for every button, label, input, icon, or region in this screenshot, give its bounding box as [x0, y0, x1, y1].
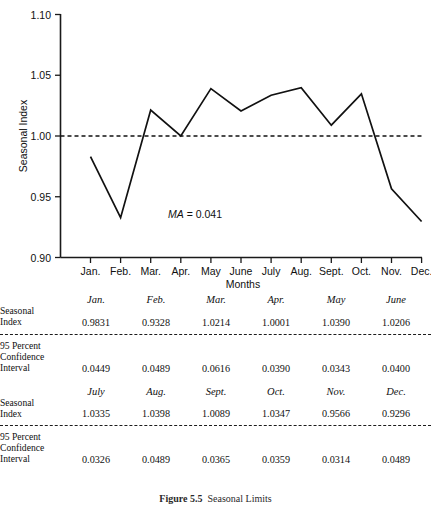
cell-ci-nov: 0.0314: [306, 429, 366, 468]
y-tick-label-4: 0.90: [31, 252, 52, 264]
cell-si-june: 1.0206: [366, 305, 426, 331]
chart-canvas: 1.10 1.05 1.00 0.95 0.90 Seasonal Index …: [0, 0, 431, 290]
cell-ci-dec: 0.0489: [366, 429, 426, 468]
table-row-confidence-interval-block2: 95 Percent Confidence Interval 0.0326 0.…: [0, 429, 431, 468]
row-label-line-2: Index: [0, 317, 66, 328]
column-header-july: July: [66, 386, 126, 397]
row-label-line-2: Index: [0, 409, 66, 420]
cell-si-dec: 0.9296: [366, 397, 426, 423]
y-tick-label-2: 1.00: [31, 130, 52, 142]
cell-ci-mar: 0.0616: [186, 338, 246, 377]
cell-si-apr: 1.0001: [246, 305, 306, 331]
cell-ci-june: 0.0400: [366, 338, 426, 377]
seasonal-index-series-line: [91, 88, 422, 222]
cell-si-aug: 1.0398: [126, 397, 186, 423]
cell-ci-aug: 0.0489: [126, 429, 186, 468]
x-tick-label-july: July: [262, 265, 281, 277]
ma-equals: =: [184, 208, 196, 220]
column-header-feb: Feb.: [126, 294, 186, 305]
y-tick-label-0: 1.10: [31, 9, 52, 21]
x-tick-label-nov: Nov.: [381, 265, 402, 277]
table-row-seasonal-index-block1: Seasonal Index 0.9831 0.9328 1.0214 1.00…: [0, 305, 431, 331]
dashed-divider: [0, 334, 431, 335]
row-label-seasonal-index-1: Seasonal Index: [0, 305, 66, 331]
column-header-sept: Sept.: [186, 386, 246, 397]
table-block-gap: [0, 377, 431, 386]
row-label-line-3: Interval: [0, 363, 66, 374]
row-label-confidence-interval-1: 95 Percent Confidence Interval: [0, 338, 66, 377]
y-tick-label-3: 0.95: [31, 191, 52, 203]
x-axis-title: Months: [226, 278, 260, 290]
x-tick-label-jan: Jan.: [81, 265, 101, 277]
table-row-seasonal-index-block2: Seasonal Index 1.0335 1.0398 1.0089 1.03…: [0, 397, 431, 423]
cell-si-feb: 0.9328: [126, 305, 186, 331]
column-header-nov: Nov.: [306, 386, 366, 397]
y-tick-label-1: 1.05: [31, 69, 52, 81]
cell-si-july: 1.0335: [66, 397, 126, 423]
column-header-oct: Oct.: [246, 386, 306, 397]
y-axis-title: Seasonal Index: [17, 99, 29, 172]
x-tick-label-june: June: [230, 265, 253, 277]
cell-si-jan: 0.9831: [66, 305, 126, 331]
x-tick-label-may: May: [201, 265, 222, 277]
x-tick-label-feb: Feb.: [110, 265, 131, 277]
row-label-line-3: Interval: [0, 454, 66, 465]
row-label-seasonal-index-2: Seasonal Index: [0, 397, 66, 423]
cell-ci-apr: 0.0390: [246, 338, 306, 377]
cell-ci-sept: 0.0365: [186, 429, 246, 468]
column-header-may: May: [306, 294, 366, 305]
cell-si-may: 1.0390: [306, 305, 366, 331]
seasonal-index-chart: 1.10 1.05 1.00 0.95 0.90 Seasonal Index …: [0, 0, 431, 290]
table-separator-2: [0, 422, 431, 429]
table-header-row-block2: July Aug. Sept. Oct. Nov. Dec.: [0, 386, 431, 397]
column-header-aug: Aug.: [126, 386, 186, 397]
column-header-jan: Jan.: [66, 294, 126, 305]
ma-annotation: MA = 0.041: [168, 208, 222, 220]
seasonal-index-table: Jan. Feb. Mar. Apr. May June Seasonal In…: [0, 294, 431, 468]
column-header-mar: Mar.: [186, 294, 246, 305]
dashed-divider: [0, 425, 431, 426]
cell-si-sept: 1.0089: [186, 397, 246, 423]
seasonal-index-table-block: Jan. Feb. Mar. Apr. May June Seasonal In…: [0, 294, 431, 468]
ma-symbol: MA: [168, 208, 184, 220]
x-tick-label-aug: Aug.: [290, 265, 312, 277]
x-tick-label-dec: Dec.: [411, 265, 431, 277]
column-header-apr: Apr.: [246, 294, 306, 305]
figure-caption: Figure 5.5Seasonal Limits: [0, 491, 431, 506]
row-label-line-1: Seasonal: [0, 398, 66, 409]
cell-ci-oct: 0.0359: [246, 429, 306, 468]
x-tick-label-apr: Apr.: [171, 265, 190, 277]
column-header-dec: Dec.: [366, 386, 426, 397]
header-corner-cell-2: [0, 386, 66, 397]
cell-si-nov: 0.9566: [306, 397, 366, 423]
y-axis-ticks: [55, 15, 61, 258]
cell-ci-feb: 0.0489: [126, 338, 186, 377]
row-label-confidence-interval-2: 95 Percent Confidence Interval: [0, 429, 66, 468]
figure-caption-number: Figure 5.5: [159, 493, 202, 504]
column-header-june: June: [366, 294, 426, 305]
cell-ci-jan: 0.0449: [66, 338, 126, 377]
table-row-confidence-interval-block1: 95 Percent Confidence Interval 0.0449 0.…: [0, 338, 431, 377]
x-axis-ticks: [91, 258, 422, 264]
ma-value: 0.041: [196, 208, 222, 220]
x-tick-label-mar: Mar.: [140, 265, 160, 277]
cell-si-oct: 1.0347: [246, 397, 306, 423]
cell-ci-july: 0.0326: [66, 429, 126, 468]
cell-ci-may: 0.0343: [306, 338, 366, 377]
header-corner-cell-1: [0, 294, 66, 305]
table-separator-1: [0, 331, 431, 338]
table-header-row-block1: Jan. Feb. Mar. Apr. May June: [0, 294, 431, 305]
cell-si-mar: 1.0214: [186, 305, 246, 331]
x-tick-label-sept: Sept.: [319, 265, 344, 277]
figure-caption-text: Seasonal Limits: [207, 493, 271, 504]
x-tick-label-oct: Oct.: [352, 265, 371, 277]
